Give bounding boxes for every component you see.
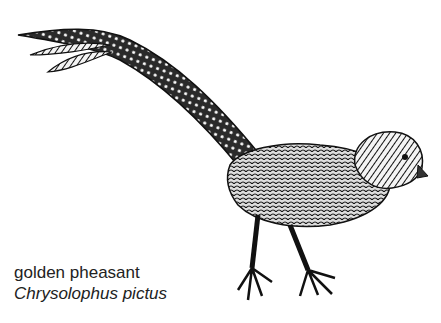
scientific-name: Chrysolophus pictus [14,283,167,304]
head [355,132,428,189]
caption: golden pheasant Chrysolophus pictus [14,262,167,304]
eye [402,154,408,160]
common-name: golden pheasant [14,262,167,283]
tail [18,29,260,168]
legs [238,215,335,300]
